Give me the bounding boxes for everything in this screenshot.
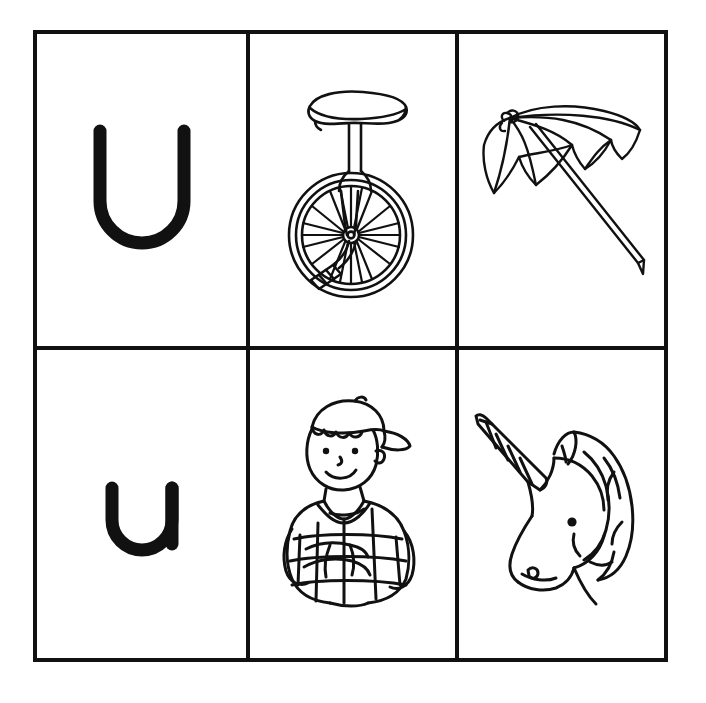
cell-unicorn: [455, 346, 664, 658]
lowercase-letter-u: u: [92, 444, 192, 564]
unicorn-illustration: [462, 402, 662, 607]
cell-uppercase-u: U: [37, 34, 246, 346]
cell-lowercase-u: u: [37, 346, 246, 658]
letter-u-worksheet-grid: U: [33, 30, 668, 662]
uniform-boy-illustration: [260, 389, 445, 619]
cell-umbrella: [455, 34, 664, 346]
umbrella-illustration: [464, 83, 659, 298]
unicycle-illustration: [263, 75, 443, 305]
cell-uniform: [246, 346, 455, 658]
uppercase-letter-u: U: [82, 115, 202, 265]
cell-unicycle: [246, 34, 455, 346]
